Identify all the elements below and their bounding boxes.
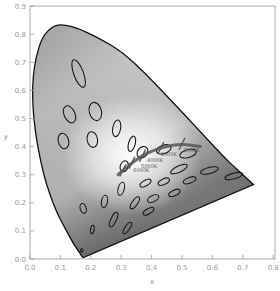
cct-label: 3000K	[161, 151, 178, 157]
y-tick-label: 0.8	[15, 31, 26, 39]
cct-label: 6000K	[133, 167, 150, 173]
y-axis: 0.00.10.20.30.40.50.60.70.80.9	[15, 3, 34, 264]
y-tick-label: 0.6	[15, 87, 27, 95]
x-tick-label: 0.5	[176, 264, 187, 272]
gamut-fill	[0, 0, 280, 291]
cie-chromaticity-chart: 2000K3000K4000K5000K6000K 0.00.10.20.30.…	[0, 0, 280, 291]
x-tick-label: 0.1	[55, 264, 66, 272]
y-tick-label: 0.7	[15, 59, 26, 67]
y-tick-label: 0.1	[15, 227, 26, 235]
x-axis-label: x	[149, 278, 155, 286]
x-tick-label: 0.3	[116, 264, 127, 272]
chart-canvas: 2000K3000K4000K5000K6000K 0.00.10.20.30.…	[0, 0, 280, 291]
y-tick-label: 0.3	[15, 171, 26, 179]
x-tick-label: 0.6	[207, 264, 219, 272]
y-tick-label: 0.4	[15, 143, 27, 151]
y-tick-label: 0.9	[15, 3, 26, 11]
x-tick-label: 0.4	[146, 264, 158, 272]
x-tick-label: 0.7	[237, 264, 248, 272]
y-axis-label: y	[3, 133, 9, 141]
cct-label: 2000K	[184, 147, 201, 153]
x-tick-label: 0.0	[24, 264, 35, 272]
y-tick-label: 0.0	[15, 256, 26, 264]
x-tick-label: 0.8	[268, 264, 279, 272]
y-tick-label: 0.5	[15, 115, 26, 123]
x-tick-label: 0.2	[85, 264, 96, 272]
x-axis: 0.00.10.20.30.40.50.60.70.8	[24, 255, 278, 272]
y-tick-label: 0.2	[15, 199, 26, 207]
